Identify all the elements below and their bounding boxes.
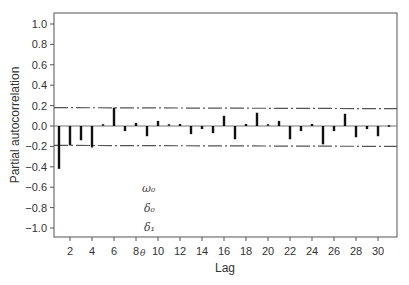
annotation-omega0: ω₀ (142, 182, 156, 195)
annotation-delta1: δ₁ (144, 221, 155, 234)
pacf-bar (157, 121, 159, 126)
pacf-bar (278, 121, 280, 126)
x-tick-label: 4 (89, 245, 95, 257)
x-tick-label: 30 (372, 245, 384, 257)
y-tick-label: −0.2 (25, 140, 47, 152)
x-axis: 24681012141618202224262830 (67, 237, 384, 257)
x-tick-label: 16 (218, 245, 230, 257)
pacf-bar (311, 124, 313, 126)
pacf-bar (267, 124, 269, 126)
pacf-bar (355, 126, 357, 137)
x-tick-label: 12 (174, 245, 186, 257)
pacf-bar (333, 126, 335, 131)
y-axis-label: Partial autocorrelation (8, 67, 22, 184)
pacf-bar (366, 126, 368, 129)
x-tick-label: 22 (284, 245, 296, 257)
confidence-band-lower (54, 145, 397, 146)
pacf-bar (58, 126, 60, 169)
x-tick-label: 18 (240, 245, 252, 257)
y-tick-label: −1.0 (25, 222, 47, 234)
y-tick-label: 0.0 (32, 120, 47, 132)
x-axis-label: Lag (215, 261, 235, 275)
y-tick-label: 0.4 (32, 79, 47, 91)
pacf-chart: 1.00.80.60.40.20.0−0.2−0.4−0.6−0.8−1.0 2… (0, 0, 409, 285)
x-tick-label: 24 (306, 245, 318, 257)
pacf-bar (234, 126, 236, 139)
y-tick-label: 0.8 (32, 38, 47, 50)
pacf-bar (135, 123, 137, 126)
x-tick-label: 20 (262, 245, 274, 257)
x-tick-label: 2 (67, 245, 73, 257)
pacf-bar (344, 114, 346, 126)
confidence-band-upper (54, 108, 397, 109)
pacf-bar (388, 125, 390, 127)
pacf-bar (91, 126, 93, 147)
pacf-bar (245, 124, 247, 126)
pacf-bar (300, 126, 302, 131)
pacf-bar (289, 126, 291, 139)
y-tick-label: −0.8 (25, 202, 47, 214)
x-tick-label: 14 (196, 245, 208, 257)
pacf-bar (212, 126, 214, 133)
pacf-bar (179, 124, 181, 126)
pacf-bar (102, 124, 104, 126)
x-tick-label: 6 (111, 245, 117, 257)
pacf-bar (146, 126, 148, 136)
pacf-bar (113, 108, 115, 126)
pacf-bar (223, 116, 225, 126)
confidence-bands (54, 108, 397, 147)
annotation-theta: θ (140, 248, 146, 258)
y-tick-label: 1.0 (32, 18, 47, 30)
x-tick-label: 8 (133, 245, 139, 257)
pacf-bar (190, 126, 192, 134)
y-tick-label: 0.6 (32, 59, 47, 71)
y-tick-label: −0.4 (25, 161, 47, 173)
pacf-bar (256, 113, 258, 126)
x-tick-label: 26 (328, 245, 340, 257)
pacf-bar (322, 126, 324, 144)
y-tick-label: 0.2 (32, 100, 47, 112)
x-tick-label: 28 (350, 245, 362, 257)
y-tick-label: −0.6 (25, 181, 47, 193)
y-axis: 1.00.80.60.40.20.0−0.2−0.4−0.6−0.8−1.0 (25, 18, 54, 234)
x-tick-label: 10 (152, 245, 164, 257)
pacf-bar (69, 126, 71, 145)
pacf-bar (377, 126, 379, 136)
annotation-delta0: δ₀ (144, 202, 156, 215)
pacf-bars (58, 108, 390, 169)
pacf-bar (124, 126, 126, 131)
pacf-bar (201, 126, 203, 129)
pacf-bar (168, 124, 170, 126)
pacf-bar (80, 126, 82, 140)
